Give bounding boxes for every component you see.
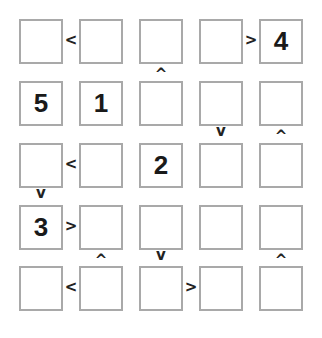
given-cell: 3: [19, 205, 63, 250]
empty-cell[interactable]: [259, 266, 303, 311]
empty-cell[interactable]: [259, 143, 303, 188]
up-caret-sign: ^: [91, 253, 111, 268]
empty-cell[interactable]: [139, 81, 183, 126]
given-cell: 1: [79, 81, 123, 126]
empty-cell[interactable]: [19, 19, 63, 64]
empty-cell[interactable]: [79, 266, 123, 311]
less-than-sign: <: [64, 33, 78, 48]
empty-cell[interactable]: [139, 19, 183, 64]
up-caret-sign: ^: [271, 129, 291, 144]
up-caret-sign: ^: [271, 253, 291, 268]
down-caret-sign: v: [211, 124, 231, 139]
up-caret-sign: ^: [151, 67, 171, 82]
empty-cell[interactable]: [139, 266, 183, 311]
empty-cell[interactable]: [79, 205, 123, 250]
given-cell: 4: [259, 19, 303, 64]
greater-than-sign: >: [64, 219, 78, 234]
empty-cell[interactable]: [139, 205, 183, 250]
empty-cell[interactable]: [199, 81, 243, 126]
empty-cell[interactable]: [199, 205, 243, 250]
empty-cell[interactable]: [199, 19, 243, 64]
empty-cell[interactable]: [199, 143, 243, 188]
empty-cell[interactable]: [259, 205, 303, 250]
empty-cell[interactable]: [19, 266, 63, 311]
empty-cell[interactable]: [79, 143, 123, 188]
given-cell: 2: [139, 143, 183, 188]
less-than-sign: <: [64, 157, 78, 172]
empty-cell[interactable]: [19, 143, 63, 188]
empty-cell[interactable]: [79, 19, 123, 64]
greater-than-sign: >: [184, 280, 198, 295]
down-caret-sign: v: [31, 186, 51, 201]
given-cell: 5: [19, 81, 63, 126]
less-than-sign: <: [64, 280, 78, 295]
greater-than-sign: >: [244, 33, 258, 48]
down-caret-sign: v: [151, 248, 171, 263]
empty-cell[interactable]: [259, 81, 303, 126]
empty-cell[interactable]: [199, 266, 243, 311]
